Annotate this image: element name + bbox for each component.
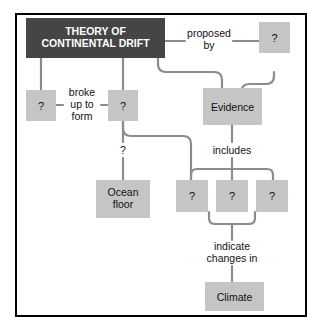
node-theory-line2: CONTINENTAL DRIFT bbox=[41, 37, 150, 49]
node-ocean-floor-line2: floor bbox=[113, 198, 134, 210]
link-label-proposed-by-line1: proposed bbox=[187, 27, 231, 39]
link-label-proposed-by: proposed by bbox=[187, 27, 231, 51]
link-label-broke-up-to-form: broke up to form bbox=[69, 86, 95, 122]
node-evidence-item-2-label: ? bbox=[229, 190, 235, 202]
node-evidence-item-3[interactable]: ? bbox=[256, 180, 288, 212]
node-evidence-item-3-label: ? bbox=[269, 190, 275, 202]
connector-proposer-to-evidence bbox=[242, 72, 274, 90]
link-label-broke-line2: up to bbox=[70, 98, 94, 110]
link-label-indicate-line2: changes in bbox=[207, 252, 258, 264]
node-evidence-item-1[interactable]: ? bbox=[176, 180, 208, 212]
connector-blank2-to-ev1 bbox=[123, 120, 191, 180]
node-blank1[interactable]: ? bbox=[26, 90, 56, 121]
link-label-broke-line3: form bbox=[72, 110, 93, 122]
link-label-proposed-by-line2: by bbox=[203, 39, 215, 51]
concept-map-canvas: THEORY OF CONTINENTAL DRIFT ? Evidence ?… bbox=[0, 0, 320, 329]
node-evidence-label: Evidence bbox=[211, 101, 254, 113]
node-ocean-floor-line1: Ocean bbox=[108, 186, 139, 198]
node-theory-line1: THEORY OF bbox=[65, 25, 126, 37]
link-label-includes: includes bbox=[213, 144, 252, 156]
link-label-indicate-changes-in: indicate changes in bbox=[207, 240, 258, 264]
node-blank2[interactable]: ? bbox=[108, 90, 138, 121]
link-label-ocean-unknown-text: ? bbox=[120, 144, 126, 156]
link-label-indicate-line1: indicate bbox=[214, 240, 250, 252]
link-label-includes-text: includes bbox=[213, 144, 252, 156]
node-theory-of-continental-drift[interactable]: THEORY OF CONTINENTAL DRIFT bbox=[26, 18, 165, 58]
diagram-root: THEORY OF CONTINENTAL DRIFT ? Evidence ?… bbox=[0, 0, 320, 329]
node-ocean-floor[interactable]: Ocean floor bbox=[96, 180, 150, 218]
node-blank2-label: ? bbox=[120, 100, 126, 112]
node-proposer-label: ? bbox=[271, 32, 277, 44]
connector-bracket-bottom-evidence-items bbox=[209, 212, 255, 224]
connector-theory-to-evidence bbox=[158, 58, 222, 88]
node-evidence-item-2[interactable]: ? bbox=[216, 180, 248, 212]
node-evidence-item-1-label: ? bbox=[189, 190, 195, 202]
node-proposer[interactable]: ? bbox=[259, 22, 290, 53]
node-blank1-label: ? bbox=[38, 100, 44, 112]
node-climate[interactable]: Climate bbox=[205, 282, 264, 311]
node-climate-label: Climate bbox=[217, 291, 253, 303]
node-evidence[interactable]: Evidence bbox=[203, 88, 262, 125]
link-label-broke-line1: broke bbox=[69, 86, 95, 98]
link-label-ocean-unknown: ? bbox=[120, 144, 126, 156]
